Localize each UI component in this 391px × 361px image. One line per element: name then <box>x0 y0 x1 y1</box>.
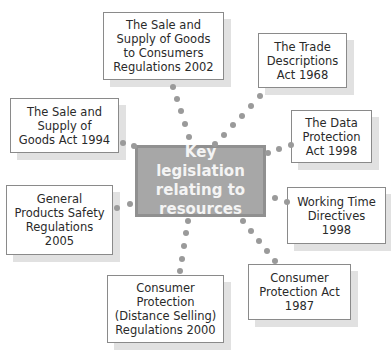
connector-dot <box>256 238 262 244</box>
connector-dot <box>114 205 120 211</box>
connector-dot <box>186 134 192 140</box>
node-distance-selling-2000: Consumer Protection (Distance Selling) R… <box>107 275 224 343</box>
central-topic: Key legislation relating to resources <box>135 145 266 217</box>
connector-dot <box>127 201 133 207</box>
node-label: General Products Safety Regulations 2005 <box>14 192 104 248</box>
connector-dot <box>257 93 263 99</box>
connector-dot <box>183 230 189 236</box>
connector-dot <box>288 142 294 148</box>
node-label: Consumer Protection Act 1987 <box>259 271 339 313</box>
connector-dot <box>272 258 278 264</box>
connector-dot <box>239 113 245 119</box>
node-sale-supply-1994: The Sale and Supply of Goods Act 1994 <box>10 98 119 153</box>
connector-dot <box>265 150 271 156</box>
connector-dot <box>276 146 282 152</box>
node-label: The Sale and Supply of Goods to Consumer… <box>113 18 213 74</box>
connector-dot <box>221 132 227 138</box>
node-trade-descriptions-1968: The Trade Descriptions Act 1968 <box>258 33 347 88</box>
node-working-time-1998: Working Time Directives 1998 <box>287 187 386 244</box>
connector-dot <box>178 108 184 114</box>
connector-dot <box>177 268 183 274</box>
connector-dot <box>181 243 187 249</box>
connector-dot <box>230 122 236 128</box>
node-consumer-protection-1987: Consumer Protection Act 1987 <box>248 264 351 320</box>
connector-dot <box>248 103 254 109</box>
connector-dot <box>240 218 246 224</box>
node-data-protection-1998: The Data Protection Act 1998 <box>291 110 372 163</box>
connector-dot <box>272 195 278 201</box>
connector-dot <box>179 256 185 262</box>
node-label: The Data Protection Act 1998 <box>302 116 360 158</box>
connector-dot <box>248 228 254 234</box>
connector-dot <box>212 141 218 147</box>
connector-dot <box>264 248 270 254</box>
connector-dot <box>120 140 126 146</box>
node-label: Consumer Protection (Distance Selling) R… <box>115 281 216 337</box>
connector-dot <box>170 84 176 90</box>
node-general-products-safety-2005: General Products Safety Regulations 2005 <box>6 185 113 255</box>
connector-dot <box>182 121 188 127</box>
connector-dot <box>185 218 191 224</box>
node-sale-supply-consumers-2002: The Sale and Supply of Goods to Consumer… <box>103 12 224 80</box>
connector-dot <box>174 96 180 102</box>
connector-dot <box>131 143 137 149</box>
node-label: Working Time Directives 1998 <box>297 195 376 237</box>
central-topic-label: Key legislation relating to resources <box>138 143 263 219</box>
node-label: The Sale and Supply of Goods Act 1994 <box>19 105 110 147</box>
connector-dot <box>284 199 290 205</box>
node-label: The Trade Descriptions Act 1968 <box>267 40 339 82</box>
